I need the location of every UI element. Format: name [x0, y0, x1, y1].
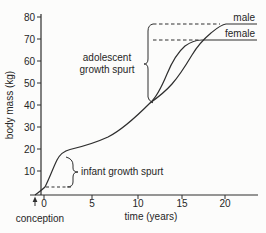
infant-spurt-brace [66, 157, 78, 187]
adolescent-spurt-label-line1: adolescent [83, 52, 132, 63]
y-tick-label-50: 50 [24, 78, 36, 89]
adolescent-spurt-label-line2: growth spurt [79, 64, 134, 75]
up-arrow-icon [33, 197, 38, 207]
x-tick-label-20: 20 [219, 198, 231, 209]
shared-growth-curve [35, 103, 150, 195]
y-tick-label-10: 10 [24, 166, 36, 177]
male-series-label: male [233, 12, 255, 23]
conception-label: conception [16, 213, 64, 224]
y-axis-title: body mass (kg) [4, 71, 15, 139]
y-tick-label-60: 60 [24, 56, 36, 67]
y-tick-label-20: 20 [24, 144, 36, 155]
infant-spurt-label: infant growth spurt [81, 166, 163, 177]
x-tick-label-0: 0 [41, 198, 47, 209]
x-axis-title: time (years) [125, 211, 178, 222]
adolescent-spurt-brace [144, 24, 153, 103]
body-mass-chart: 80 70 60 50 40 30 20 10 0 5 10 15 20 bod… [0, 0, 266, 233]
female-series-label: female [225, 28, 255, 39]
y-tick-label-30: 30 [24, 122, 36, 133]
y-tick-label-70: 70 [24, 34, 36, 45]
x-tick-label-10: 10 [132, 198, 144, 209]
y-tick-label-80: 80 [24, 12, 36, 23]
female-curve [150, 40, 257, 103]
x-tick-label-5: 5 [89, 198, 95, 209]
x-tick-label-15: 15 [176, 198, 188, 209]
growth-curve-figure: 80 70 60 50 40 30 20 10 0 5 10 15 20 bod… [0, 0, 266, 233]
y-tick-label-40: 40 [24, 100, 36, 111]
